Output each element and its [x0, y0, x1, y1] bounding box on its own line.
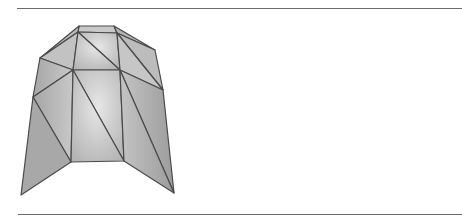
- mesh-figure: [0, 0, 462, 220]
- mesh-faces: [21, 26, 174, 195]
